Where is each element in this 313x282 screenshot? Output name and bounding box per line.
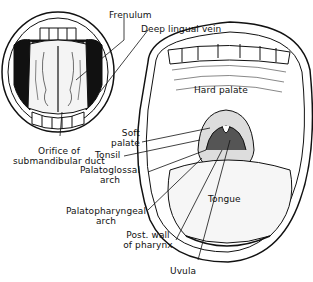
label-tongue: Tongue <box>208 194 241 204</box>
label-post-wall-pharynx: Post. wall of pharynx <box>118 230 178 250</box>
label-hard-palate: Hard palate <box>194 85 248 95</box>
label-palatopharyngeal-line1: Palatopharyngeal <box>64 206 148 216</box>
label-palatoglossal-line1: Palatoglossal <box>72 165 148 175</box>
label-palatopharyngeal-arch: Palatopharyngeal arch <box>64 206 148 226</box>
label-soft-palate-line1: Soft <box>110 128 140 138</box>
open-mouth-view <box>138 22 313 262</box>
label-post-wall-line2: of pharynx <box>118 240 178 250</box>
underside-tongue-view <box>2 12 114 132</box>
label-soft-palate-line2: palate <box>110 138 140 148</box>
label-palatopharyngeal-line2: arch <box>64 216 148 226</box>
label-tonsil: Tonsil <box>95 150 120 160</box>
label-soft-palate: Soft palate <box>110 128 140 148</box>
label-palatoglossal-arch: Palatoglossal arch <box>72 165 148 185</box>
label-uvula: Uvula <box>170 266 196 276</box>
label-post-wall-line1: Post. wall <box>118 230 178 240</box>
label-palatoglossal-line2: arch <box>72 175 148 185</box>
label-frenulum: Frenulum <box>109 10 152 20</box>
label-deep-lingual-vein: Deep lingual vein <box>141 24 221 34</box>
